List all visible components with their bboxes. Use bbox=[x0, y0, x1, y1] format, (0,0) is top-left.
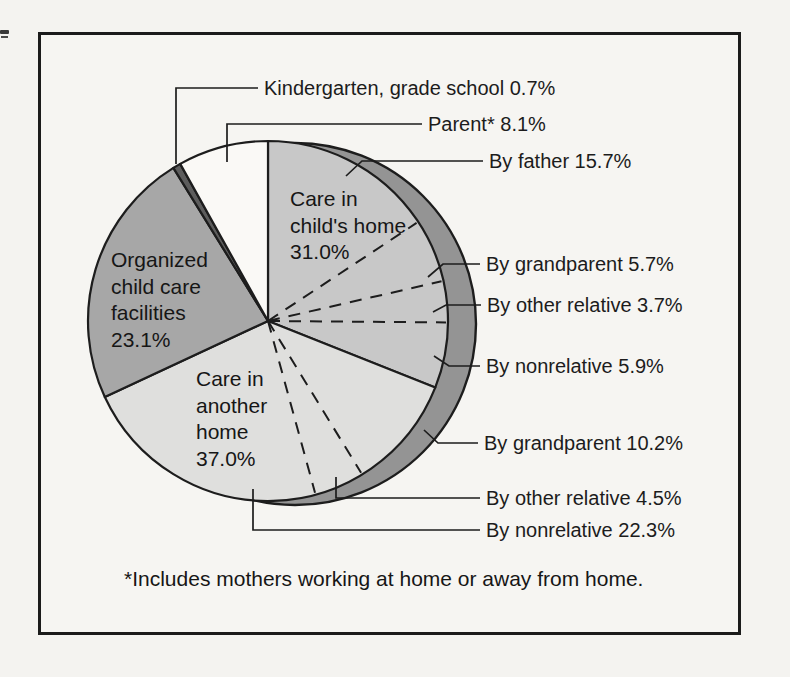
callout-label: Parent* 8.1% bbox=[428, 111, 546, 137]
slice-inside-label: Organized child care facilities 23.1% bbox=[111, 247, 208, 353]
callout-label: By grandparent 10.2% bbox=[484, 430, 683, 456]
slice-inside-label: Care in another home 37.0% bbox=[196, 366, 267, 472]
callout-label: Kindergarten, grade school 0.7% bbox=[264, 75, 555, 101]
scanned-page: *Includes mothers working at home or awa… bbox=[0, 0, 790, 677]
footnote: *Includes mothers working at home or awa… bbox=[124, 566, 643, 592]
callout-label: By nonrelative 22.3% bbox=[486, 517, 675, 543]
callout-label: By other relative 3.7% bbox=[487, 292, 683, 318]
slice-inside-label: Care in child's home 31.0% bbox=[290, 186, 406, 266]
chart-labels-layer: *Includes mothers working at home or awa… bbox=[0, 0, 790, 677]
callout-label: By other relative 4.5% bbox=[486, 485, 682, 511]
callout-label: By nonrelative 5.9% bbox=[486, 353, 664, 379]
callout-label: By grandparent 5.7% bbox=[486, 251, 674, 277]
callout-label: By father 15.7% bbox=[489, 148, 631, 174]
